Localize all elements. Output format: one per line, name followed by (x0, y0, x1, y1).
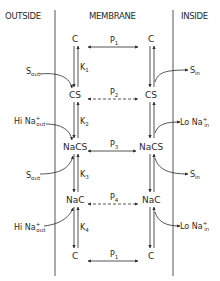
lo-na-in-2: Lo Na+in (180, 220, 210, 232)
header-membrane: MEMBRANE (89, 11, 136, 21)
permeability-labels: P1 P2 P3 P4 P1 (110, 36, 119, 260)
state-right-nac: NaC (142, 195, 161, 205)
right-states: C CS NaCS NaC C (139, 34, 164, 261)
s-in-2: Sin (190, 170, 201, 180)
lo-na-in-1: Lo Na+in (180, 116, 210, 128)
p1-bottom-label: P1 (110, 250, 118, 260)
permeability-arrows (88, 47, 138, 261)
inside-species: Sin Lo Na+in Sin Lo Na+in (180, 66, 210, 232)
k4-label: K4 (80, 223, 89, 233)
p2-label: P2 (110, 88, 118, 98)
state-right-c-bottom: C (148, 251, 154, 261)
state-right-cs: CS (145, 90, 157, 100)
s-out-2: Sout (26, 171, 41, 181)
hi-na-out-1: Hi Na+out (14, 115, 46, 127)
p4-label: P4 (110, 193, 119, 203)
transport-diagram: OUTSIDE MEMBRANE INSIDE C CS NaCS NaC C … (0, 0, 220, 281)
p3-label: P3 (110, 140, 119, 150)
state-right-c-top: C (148, 34, 154, 44)
state-left-nacs: NaCS (63, 142, 88, 152)
state-left-nac: NaC (66, 195, 85, 205)
s-out-1: Sout (26, 67, 41, 77)
state-left-cs: CS (69, 90, 81, 100)
state-left-c-top: C (72, 34, 78, 44)
p1-top-label: P1 (110, 36, 118, 46)
hi-na-out-2: Hi Na+out (14, 221, 46, 233)
outside-species: Sout Hi Na+out Sout Hi Na+out (14, 67, 46, 233)
header-inside: INSIDE (181, 11, 208, 21)
header-outside: OUTSIDE (5, 11, 41, 21)
s-in-1: Sin (190, 66, 201, 76)
state-left-c-bottom: C (72, 251, 78, 261)
k3-label: K3 (80, 170, 89, 180)
state-right-nacs: NaCS (139, 142, 164, 152)
k1-label: K1 (80, 63, 89, 73)
k2-label: K2 (80, 117, 89, 127)
